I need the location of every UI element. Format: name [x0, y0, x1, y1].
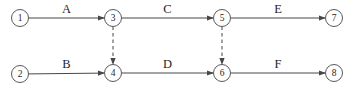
- network-diagram: ACEBDF12345678: [0, 0, 353, 92]
- edge-label-E: E: [274, 2, 282, 16]
- edge-label-A: A: [62, 2, 71, 16]
- node-8-label: 8: [332, 68, 337, 78]
- node-1-label: 1: [18, 13, 23, 23]
- arrow-2-4: [28, 73, 104, 74]
- node-4-label: 4: [111, 68, 116, 78]
- node-6-label: 6: [220, 68, 225, 78]
- node-7-label: 7: [332, 13, 337, 23]
- edge-label-C: C: [163, 2, 171, 16]
- node-5-label: 5: [220, 13, 225, 23]
- edge-label-D: D: [163, 57, 172, 71]
- network-diagram-canvas: ACEBDF12345678: [0, 0, 353, 92]
- node-3-label: 3: [111, 13, 116, 23]
- edge-label-B: B: [62, 57, 70, 71]
- node-2-label: 2: [18, 69, 23, 79]
- edge-label-F: F: [275, 57, 282, 71]
